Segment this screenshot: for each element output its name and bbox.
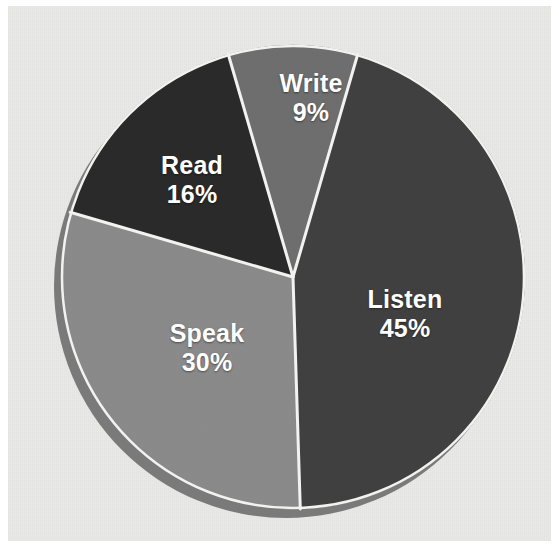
slice-label-read-value: 16% xyxy=(161,180,223,209)
slice-label-write-value: 9% xyxy=(279,98,342,127)
slice-label-speak-value: 30% xyxy=(170,348,245,377)
slice-label-speak: Speak 30% xyxy=(170,319,245,377)
slice-label-listen: Listen 45% xyxy=(368,285,443,343)
slice-label-speak-name: Speak xyxy=(170,319,245,348)
slice-label-listen-name: Listen xyxy=(368,285,443,314)
pie-chart: Write 9% Listen 45% Speak 30% Read 16% xyxy=(0,0,559,547)
slice-label-read: Read 16% xyxy=(161,151,223,209)
slice-label-write: Write 9% xyxy=(279,69,342,127)
slice-label-listen-value: 45% xyxy=(368,314,443,343)
chart-canvas: Write 9% Listen 45% Speak 30% Read 16% xyxy=(0,0,559,547)
slice-label-write-name: Write xyxy=(279,69,342,98)
slice-label-read-name: Read xyxy=(161,151,223,180)
